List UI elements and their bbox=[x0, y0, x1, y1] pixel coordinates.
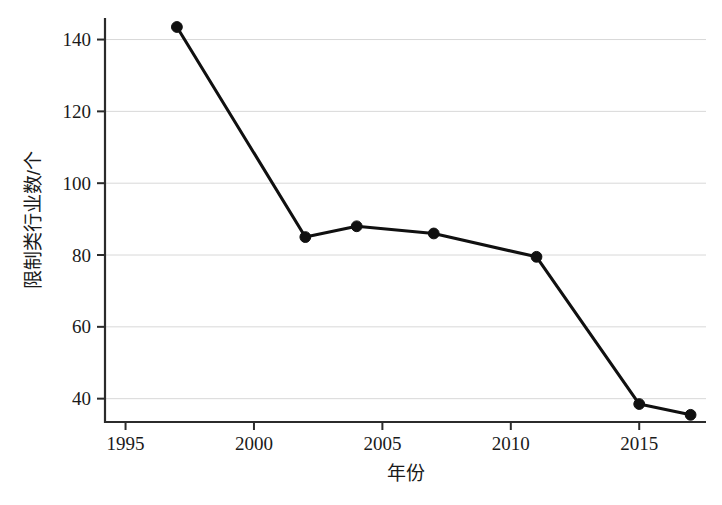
data-point-marker bbox=[428, 228, 439, 239]
data-series-group bbox=[172, 22, 696, 421]
y-tick-group bbox=[97, 40, 105, 399]
data-point-marker bbox=[685, 409, 696, 420]
x-tick-label: 2010 bbox=[492, 433, 530, 454]
gridline-group bbox=[105, 40, 706, 399]
data-point-marker bbox=[351, 221, 362, 232]
line-chart: 406080100120140 19952000200520102015 年份 … bbox=[0, 0, 722, 505]
data-point-marker bbox=[172, 22, 183, 33]
data-point-marker bbox=[634, 399, 645, 410]
x-tick-label: 2000 bbox=[235, 433, 273, 454]
series-markers bbox=[172, 22, 696, 421]
x-tick-label: 1995 bbox=[107, 433, 145, 454]
y-tick-labels: 406080100120140 bbox=[63, 29, 92, 409]
x-tick-labels: 19952000200520102015 bbox=[107, 433, 659, 454]
y-tick-label: 100 bbox=[63, 173, 92, 194]
y-tick-label: 40 bbox=[72, 388, 91, 409]
y-tick-label: 120 bbox=[63, 101, 92, 122]
y-axis-title: 限制类行业数/个 bbox=[23, 151, 44, 289]
axis-lines bbox=[105, 18, 706, 422]
y-tick-label: 140 bbox=[63, 29, 92, 50]
series-line bbox=[177, 27, 691, 415]
x-tick-group bbox=[126, 422, 640, 430]
axis-frame bbox=[105, 18, 706, 422]
x-tick-label: 2015 bbox=[620, 433, 658, 454]
chart-figure: 406080100120140 19952000200520102015 年份 … bbox=[0, 0, 722, 505]
x-tick-label: 2005 bbox=[363, 433, 401, 454]
data-point-marker bbox=[300, 232, 311, 243]
data-point-marker bbox=[531, 251, 542, 262]
x-axis-title: 年份 bbox=[387, 463, 425, 484]
y-tick-label: 60 bbox=[72, 316, 91, 337]
y-tick-label: 80 bbox=[72, 245, 91, 266]
